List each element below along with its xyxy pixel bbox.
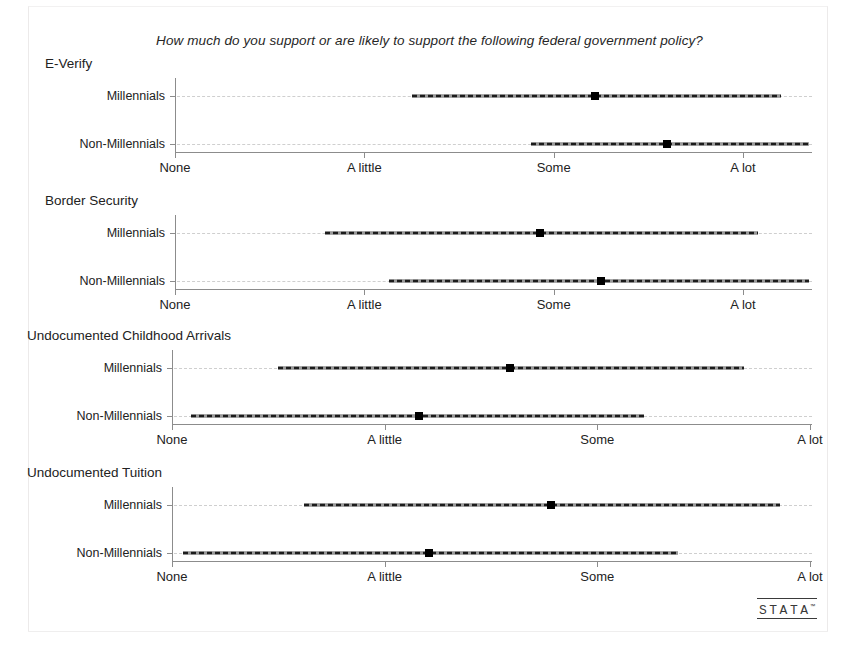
y-axis-category-label: Millennials xyxy=(0,498,162,512)
x-axis-line xyxy=(175,289,812,290)
y-axis-tick xyxy=(170,96,175,97)
y-axis-tick xyxy=(167,553,172,554)
mean-point-marker xyxy=(415,412,423,420)
chart-panel: Border SecurityNoneA littleSomeA lotMill… xyxy=(0,193,859,323)
x-axis-tick-label: A little xyxy=(347,160,382,175)
trademark-icon: ™ xyxy=(811,603,815,611)
y-axis-tick xyxy=(167,368,172,369)
scan-frame-bottom xyxy=(28,631,828,632)
chart-figure: How much do you support or are likely to… xyxy=(0,0,859,646)
y-axis-category-label: Non-Millennials xyxy=(0,137,165,151)
x-axis-tick xyxy=(810,562,811,567)
mean-point-marker xyxy=(547,501,555,509)
panel-title: Undocumented Tuition xyxy=(27,465,162,480)
panel-title: Border Security xyxy=(45,193,138,208)
y-axis-category-label: Millennials xyxy=(0,361,162,375)
y-axis-category-label: Millennials xyxy=(0,89,165,103)
y-axis-tick xyxy=(167,505,172,506)
chart-panel: E-VerifyNoneA littleSomeA lotMillennials… xyxy=(0,56,859,186)
x-axis-tick-label: A lot xyxy=(730,297,755,312)
y-axis-category-label: Non-Millennials xyxy=(0,409,162,423)
confidence-interval-bar xyxy=(304,504,780,507)
x-axis-tick xyxy=(385,425,386,430)
y-axis-category-label: Millennials xyxy=(0,226,165,240)
y-axis-category-label: Non-Millennials xyxy=(0,546,162,560)
x-axis-tick xyxy=(172,425,173,430)
y-axis-line xyxy=(172,350,173,424)
y-axis-tick xyxy=(170,233,175,234)
y-axis-line xyxy=(172,487,173,561)
mean-point-marker xyxy=(597,277,605,285)
x-axis-tick xyxy=(385,562,386,567)
stata-logo-text: STATA xyxy=(759,603,811,618)
x-axis-tick xyxy=(172,562,173,567)
x-axis-line xyxy=(175,152,812,153)
x-axis-tick-label: None xyxy=(156,432,187,447)
stata-logo: STATA™ xyxy=(757,598,817,619)
scan-artifact xyxy=(703,597,704,609)
y-axis-line xyxy=(175,78,176,152)
x-axis-tick xyxy=(597,562,598,567)
y-axis-tick xyxy=(167,416,172,417)
panel-title: Undocumented Childhood Arrivals xyxy=(27,328,231,343)
x-axis-tick-label: A little xyxy=(367,432,402,447)
x-axis-tick-label: None xyxy=(159,160,190,175)
chart-title: How much do you support or are likely to… xyxy=(0,33,859,48)
x-axis-tick-label: A lot xyxy=(797,432,822,447)
x-axis-tick xyxy=(554,153,555,158)
x-axis-tick-label: A lot xyxy=(730,160,755,175)
y-axis-tick xyxy=(170,144,175,145)
x-axis-tick-label: A little xyxy=(367,569,402,584)
x-axis-tick-label: Some xyxy=(580,432,614,447)
panel-title: E-Verify xyxy=(45,56,92,71)
chart-panel: Undocumented TuitionNoneA littleSomeA lo… xyxy=(0,465,859,595)
y-axis-category-label: Non-Millennials xyxy=(0,274,165,288)
x-axis-tick-label: Some xyxy=(537,160,571,175)
x-axis-tick xyxy=(743,290,744,295)
x-axis-line xyxy=(172,424,812,425)
x-axis-tick xyxy=(810,425,811,430)
mean-point-marker xyxy=(591,92,599,100)
x-axis-tick xyxy=(597,425,598,430)
x-axis-tick-label: None xyxy=(159,297,190,312)
x-axis-tick xyxy=(364,153,365,158)
mean-point-marker xyxy=(425,549,433,557)
x-axis-tick xyxy=(175,290,176,295)
y-axis-tick xyxy=(170,281,175,282)
x-axis-tick-label: None xyxy=(156,569,187,584)
x-axis-tick xyxy=(175,153,176,158)
mean-point-marker xyxy=(663,140,671,148)
x-axis-tick-label: A lot xyxy=(797,569,822,584)
y-axis-line xyxy=(175,215,176,289)
x-axis-tick xyxy=(554,290,555,295)
x-axis-line xyxy=(172,561,812,562)
chart-panel: Undocumented Childhood ArrivalsNoneA lit… xyxy=(0,328,859,458)
x-axis-tick xyxy=(364,290,365,295)
x-axis-tick-label: Some xyxy=(537,297,571,312)
x-axis-tick xyxy=(743,153,744,158)
mean-point-marker xyxy=(506,364,514,372)
x-axis-tick-label: A little xyxy=(347,297,382,312)
mean-point-marker xyxy=(536,229,544,237)
x-axis-tick-label: Some xyxy=(580,569,614,584)
